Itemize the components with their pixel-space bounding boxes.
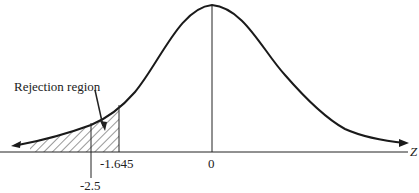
left-arrow-icon (11, 141, 21, 148)
z-axis-label: Z (410, 144, 417, 160)
zero-label: 0 (208, 156, 215, 172)
right-arrow-icon (399, 139, 409, 147)
test-statistic-label: -2.5 (80, 178, 101, 193)
critical-value-label: -1.645 (100, 156, 134, 172)
rejection-region-label: Rejection region (14, 79, 100, 95)
